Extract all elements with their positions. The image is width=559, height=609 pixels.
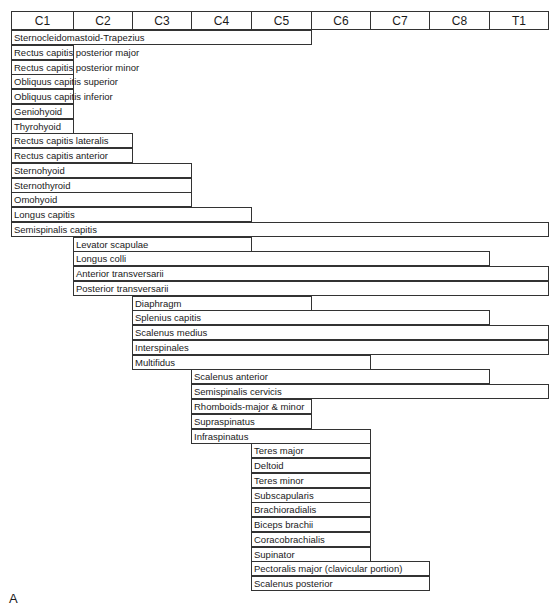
muscle-label: Biceps brachii: [251, 517, 313, 532]
muscle-label: Teres major: [251, 443, 304, 458]
muscle-label: Longus capitis: [11, 207, 75, 222]
muscle-label: Splenius capitis: [132, 310, 201, 325]
muscle-label: Obliquus capitis superior: [11, 74, 118, 89]
column-header-c2: C2: [73, 11, 133, 30]
muscle-label: Rectus capitis lateralis: [11, 133, 109, 148]
muscle-label: Interspinales: [132, 340, 189, 355]
muscle-label: Rectus capitis posterior major: [11, 45, 139, 60]
innervation-bar: [73, 251, 490, 266]
muscle-label: Semispinalis cervicis: [191, 384, 282, 399]
muscle-label: Sternocleidomastoid-Trapezius: [11, 30, 145, 45]
muscle-label: Scalenus medius: [132, 325, 207, 340]
column-header-c5: C5: [251, 11, 312, 30]
column-header-t1: T1: [489, 11, 549, 30]
muscle-label: Pectoralis major (clavicular portion): [251, 561, 402, 576]
muscle-label: Supraspinatus: [191, 414, 255, 429]
column-header-c6: C6: [311, 11, 371, 30]
column-header-c8: C8: [429, 11, 490, 30]
panel-label: A: [9, 591, 18, 606]
innervation-chart: C1C2C3C4C5C6C7C8T1Sternocleidomastoid-Tr…: [0, 0, 559, 609]
muscle-label: Longus colli: [73, 251, 126, 266]
muscle-label: Posterior transversarii: [73, 281, 168, 296]
muscle-label: Subscapularis: [251, 488, 314, 503]
muscle-label: Diaphragm: [132, 296, 181, 311]
muscle-label: Omohyoid: [11, 192, 57, 207]
muscle-label: Obliquus capitis inferior: [11, 89, 113, 104]
column-header-c4: C4: [191, 11, 252, 30]
muscle-label: Rectus capitis anterior: [11, 148, 108, 163]
muscle-label: Brachioradialis: [251, 502, 316, 517]
muscle-label: Scalenus posterior: [251, 576, 333, 591]
innervation-bar: [132, 340, 549, 355]
muscle-label: Scalenus anterior: [191, 369, 268, 384]
column-header-c3: C3: [132, 11, 192, 30]
muscle-label: Rhomboids-major & minor: [191, 399, 304, 414]
muscle-label: Geniohyoid: [11, 104, 62, 119]
muscle-label: Rectus capitis posterior minor: [11, 60, 139, 75]
muscle-label: Supinator: [251, 547, 295, 562]
muscle-label: Anterior transversarii: [73, 266, 164, 281]
column-header-c7: C7: [370, 11, 430, 30]
muscle-label: Thyrohyoid: [11, 119, 61, 134]
muscle-label: Deltoid: [251, 458, 284, 473]
muscle-label: Infraspinatus: [191, 429, 248, 444]
muscle-label: Levator scapulae: [73, 237, 148, 252]
muscle-label: Multifidus: [132, 355, 175, 370]
muscle-label: Sternothyroid: [11, 178, 71, 193]
muscle-label: Coracobrachialis: [251, 532, 325, 547]
column-header-c1: C1: [11, 11, 74, 30]
muscle-label: Teres minor: [251, 473, 304, 488]
muscle-label: Semispinalis capitis: [11, 222, 97, 237]
muscle-label: Sternohyoid: [11, 163, 65, 178]
